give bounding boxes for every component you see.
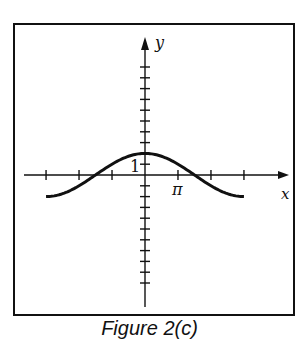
x-tick-label-pi: π bbox=[171, 180, 183, 199]
x-axis-label: x bbox=[281, 185, 290, 203]
frame bbox=[14, 24, 294, 315]
y-tick-label-1: 1 bbox=[130, 157, 140, 176]
x-axis bbox=[24, 170, 289, 180]
y-axis-label: y bbox=[154, 33, 165, 52]
y-axis-arrow-icon bbox=[141, 37, 149, 50]
x-axis-arrow-icon bbox=[278, 171, 289, 179]
figure-caption: Figure 2(c) bbox=[0, 318, 299, 338]
y-axis bbox=[140, 37, 150, 307]
